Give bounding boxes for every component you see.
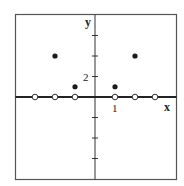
- x-axis-label: x: [164, 100, 170, 114]
- filled-point: [72, 84, 77, 89]
- y-tick-label-2: 2: [83, 71, 89, 83]
- x-tick-label-1: 1: [112, 102, 118, 114]
- open-point: [152, 94, 158, 100]
- open-point: [112, 94, 118, 100]
- filled-point: [112, 84, 117, 89]
- y-axis-label: y: [85, 15, 91, 29]
- open-point: [32, 94, 38, 100]
- open-point: [132, 94, 138, 100]
- scatter-plot: y x 2 1: [0, 0, 184, 186]
- open-point: [52, 94, 58, 100]
- open-point: [72, 94, 78, 100]
- filled-point: [132, 53, 137, 58]
- filled-point: [52, 53, 57, 58]
